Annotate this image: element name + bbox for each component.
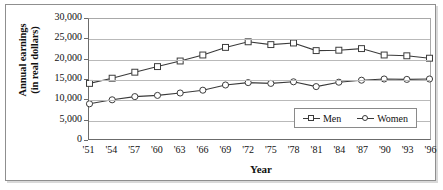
y-axis-title-line-2: (in real dollars) — [29, 0, 41, 130]
gridline — [89, 80, 430, 81]
y-axis-title: Annual earnings (in real dollars) — [17, 0, 41, 130]
data-point-marker-square — [291, 40, 297, 46]
gridline — [89, 60, 430, 61]
data-point-marker-square — [132, 69, 138, 75]
legend-marker-square-icon — [303, 114, 320, 123]
gridline — [89, 39, 430, 40]
data-point-marker-square — [313, 48, 319, 54]
data-point-marker-circle — [177, 90, 183, 96]
data-point-marker-circle — [132, 94, 138, 100]
legend-entry-women[interactable]: Women — [357, 113, 408, 124]
data-point-marker-square — [87, 80, 93, 86]
chart-legend: MenWomen — [294, 108, 417, 128]
data-point-marker-square — [200, 52, 206, 58]
x-axis-title: Year — [86, 163, 436, 175]
data-point-marker-circle — [313, 84, 319, 90]
data-point-marker-square — [223, 44, 229, 50]
legend-label: Men — [323, 113, 341, 124]
legend-marker-circle-icon — [357, 114, 374, 123]
data-point-marker-circle — [86, 101, 92, 107]
data-point-marker-square — [381, 52, 387, 58]
legend-label: Women — [377, 113, 408, 124]
data-point-marker-circle — [200, 87, 206, 93]
data-point-marker-circle — [426, 76, 432, 82]
y-axis-title-line-1: Annual earnings — [17, 0, 29, 130]
data-point-marker-square — [404, 53, 410, 59]
gridline — [89, 100, 430, 101]
data-point-marker-square — [155, 64, 161, 70]
data-point-marker-square — [359, 46, 365, 52]
x-axis-tick-label: '96 — [416, 144, 443, 155]
data-point-marker-square — [268, 42, 274, 48]
data-point-marker-circle — [154, 92, 160, 98]
series-line — [89, 42, 429, 84]
data-point-marker-circle — [381, 76, 387, 82]
legend-entry-men[interactable]: Men — [303, 113, 341, 124]
chart-figure: Annual earnings (in real dollars) 05,000… — [0, 0, 443, 190]
data-point-marker-circle — [222, 82, 228, 88]
data-point-marker-square — [336, 47, 342, 53]
data-point-marker-circle — [268, 80, 274, 86]
